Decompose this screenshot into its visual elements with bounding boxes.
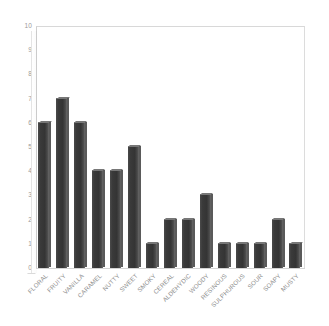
x-label-slot: MUSTY	[287, 268, 305, 326]
bar-slot	[72, 26, 90, 268]
bar[interactable]	[92, 170, 103, 268]
bar-chart: 012345678910 FLORALFRUITYVANILLACARAMELN…	[0, 0, 329, 326]
y-tick-label-10: 10	[14, 23, 32, 30]
y-axis-tick-labels: 012345678910	[14, 0, 32, 326]
bar-slot	[233, 26, 251, 268]
y-tick-label-4: 4	[14, 168, 32, 175]
bar-side-face	[247, 243, 249, 267]
bar[interactable]	[200, 194, 211, 268]
y-tick-label-3: 3	[14, 192, 32, 199]
bar-side-face	[283, 219, 285, 267]
x-label-slot: FRUITY	[54, 268, 72, 326]
x-axis-tick-labels: FLORALFRUITYVANILLACARAMELNUTTYSWEETSMOK…	[36, 268, 305, 326]
bar-side-face	[67, 98, 69, 267]
x-label-slot: SOAPY	[269, 268, 287, 326]
bar-side-face	[139, 146, 141, 267]
bar[interactable]	[164, 219, 175, 268]
bar[interactable]	[182, 219, 193, 268]
bar-slot	[54, 26, 72, 268]
y-tick-label-2: 2	[14, 216, 32, 223]
y-tick-label-6: 6	[14, 120, 32, 127]
bar-side-face	[300, 243, 302, 267]
y-tick-label-5: 5	[14, 144, 32, 151]
x-label-slot: ALDEHYDIC	[179, 268, 197, 326]
bar-side-face	[49, 122, 51, 267]
bar-side-face	[103, 170, 105, 267]
x-label-slot: CARAMEL	[90, 268, 108, 326]
bar-side-face	[85, 122, 87, 267]
x-label-slot: SOUR	[251, 268, 269, 326]
y-tick-label-9: 9	[14, 47, 32, 54]
bar-slot	[269, 26, 287, 268]
bar-side-face	[157, 243, 159, 267]
bar-side-face	[211, 194, 213, 267]
x-label-slot: NUTTY	[108, 268, 126, 326]
y-tick-label-1: 1	[14, 241, 32, 248]
x-label-slot: SULPHUROUS	[233, 268, 251, 326]
bar-slot	[36, 26, 54, 268]
bar-side-face	[265, 243, 267, 267]
x-label-slot: SWEET	[126, 268, 144, 326]
y-tick-label-8: 8	[14, 71, 32, 78]
bar[interactable]	[146, 243, 157, 268]
bar-side-face	[121, 170, 123, 267]
bar-slot	[126, 26, 144, 268]
bar[interactable]	[56, 98, 67, 268]
bar-slot	[197, 26, 215, 268]
bar-slot	[215, 26, 233, 268]
bar[interactable]	[289, 243, 300, 268]
bar-slot	[108, 26, 126, 268]
bar-slot	[287, 26, 305, 268]
bar[interactable]	[236, 243, 247, 268]
bar[interactable]	[110, 170, 121, 268]
bar[interactable]	[74, 122, 85, 268]
bar-side-face	[193, 219, 195, 267]
x-label-slot: SMOKY	[144, 268, 162, 326]
bar-slot	[90, 26, 108, 268]
x-label-slot: FLORAL	[36, 268, 54, 326]
bar-slot	[251, 26, 269, 268]
bar-slot	[162, 26, 180, 268]
bar-side-face	[229, 243, 231, 267]
bars-layer	[36, 26, 305, 268]
bar[interactable]	[128, 146, 139, 268]
bar-slot	[179, 26, 197, 268]
bar-side-face	[175, 219, 177, 267]
bar[interactable]	[254, 243, 265, 268]
bar[interactable]	[218, 243, 229, 268]
bar-slot	[144, 26, 162, 268]
y-tick-label-7: 7	[14, 95, 32, 102]
bar[interactable]	[272, 219, 283, 268]
bar[interactable]	[38, 122, 49, 268]
